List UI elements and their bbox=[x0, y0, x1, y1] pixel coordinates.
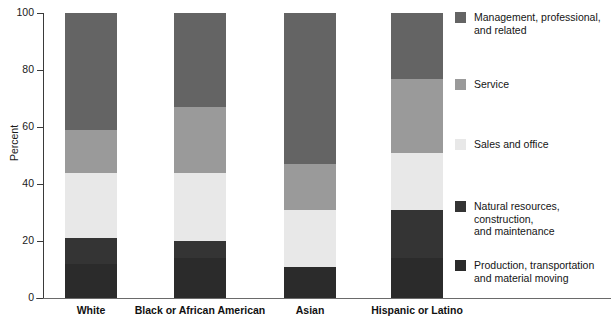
bar-segment bbox=[65, 173, 117, 239]
bar-segment bbox=[284, 267, 336, 298]
legend-entry[interactable]: Management, professional, and related bbox=[455, 11, 601, 36]
legend-swatch-icon bbox=[455, 139, 466, 150]
bar-segment bbox=[391, 153, 443, 210]
legend-swatch-icon bbox=[455, 12, 466, 23]
x-axis-label: Hispanic or Latino bbox=[317, 305, 517, 317]
legend-label: Sales and office bbox=[474, 138, 549, 151]
legend-entry[interactable]: Production, transportation and material … bbox=[455, 259, 594, 284]
y-tick-label: 60 bbox=[0, 121, 34, 132]
y-tick-label: 0 bbox=[0, 292, 34, 303]
bar-segment bbox=[391, 79, 443, 153]
bar-segment bbox=[284, 13, 336, 164]
bar-hispanic-or-latino bbox=[391, 13, 443, 298]
bar-segment bbox=[174, 13, 226, 107]
bar-white bbox=[65, 13, 117, 298]
legend-swatch-icon bbox=[455, 201, 466, 212]
legend-entry[interactable]: Natural resources, construction, and mai… bbox=[455, 200, 560, 238]
x-axis-line bbox=[36, 298, 611, 299]
bar-segment bbox=[174, 107, 226, 173]
bar-segment bbox=[65, 238, 117, 264]
y-tick-label: 20 bbox=[0, 235, 34, 246]
legend-entry[interactable]: Sales and office bbox=[455, 138, 549, 151]
bar-segment bbox=[284, 210, 336, 267]
legend-entry[interactable]: Service bbox=[455, 78, 509, 91]
bar-segment bbox=[174, 173, 226, 241]
bar-segment bbox=[65, 130, 117, 173]
legend-label: Natural resources, construction, and mai… bbox=[474, 200, 560, 238]
bar-black-or-african-american bbox=[174, 13, 226, 298]
bar-segment bbox=[174, 241, 226, 258]
legend-label: Production, transportation and material … bbox=[474, 259, 594, 284]
y-tick-label: 80 bbox=[0, 64, 34, 75]
legend-label: Service bbox=[474, 78, 509, 91]
plot-area bbox=[43, 13, 453, 298]
bar-segment bbox=[65, 264, 117, 298]
bar-segment bbox=[284, 164, 336, 210]
y-tick-label: 40 bbox=[0, 178, 34, 189]
bar-segment bbox=[391, 258, 443, 298]
bar-segment bbox=[65, 13, 117, 130]
y-tick-mark bbox=[37, 298, 43, 299]
bar-segment bbox=[174, 258, 226, 298]
y-tick-label: 100 bbox=[0, 7, 34, 18]
legend-swatch-icon bbox=[455, 260, 466, 271]
stacked-bar-chart: Percent 020406080100 WhiteBlack or Afric… bbox=[0, 0, 611, 325]
bar-segment bbox=[391, 210, 443, 258]
legend-swatch-icon bbox=[455, 79, 466, 90]
legend-label: Management, professional, and related bbox=[474, 11, 601, 36]
y-axis-title: Percent bbox=[8, 108, 20, 178]
bar-segment bbox=[391, 13, 443, 79]
bar-asian bbox=[284, 13, 336, 298]
